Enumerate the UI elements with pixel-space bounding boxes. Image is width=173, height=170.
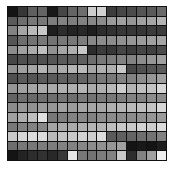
heatmap-grid: [7, 6, 167, 161]
heatmap-cell: [78, 84, 87, 93]
heatmap-cell: [8, 26, 17, 35]
heatmap-cell: [157, 94, 166, 103]
heatmap-cell: [38, 65, 47, 74]
heatmap-cell: [58, 65, 67, 74]
heatmap-cell: [127, 151, 136, 160]
heatmap-cell: [58, 151, 67, 160]
heatmap-cell: [78, 142, 87, 151]
heatmap-cell: [88, 132, 97, 141]
heatmap-cell: [147, 151, 156, 160]
heatmap-cell: [58, 123, 67, 132]
heatmap-cell: [107, 17, 116, 26]
heatmap-cell: [88, 55, 97, 64]
heatmap-cell: [68, 84, 77, 93]
heatmap-cell: [38, 103, 47, 112]
heatmap-cell: [157, 7, 166, 16]
heatmap-cell: [38, 132, 47, 141]
heatmap-cell: [97, 36, 106, 45]
heatmap-cell: [97, 74, 106, 83]
heatmap-cell: [157, 103, 166, 112]
heatmap-cell: [48, 55, 57, 64]
heatmap-cell: [18, 65, 27, 74]
heatmap-cell: [8, 7, 17, 16]
heatmap-cell: [137, 74, 146, 83]
heatmap-cell: [107, 94, 116, 103]
heatmap-cell: [78, 7, 87, 16]
heatmap-cell: [28, 94, 37, 103]
heatmap-cell: [107, 151, 116, 160]
heatmap-cell: [48, 84, 57, 93]
heatmap-cell: [137, 84, 146, 93]
heatmap-cell: [38, 46, 47, 55]
heatmap-cell: [68, 55, 77, 64]
heatmap-cell: [117, 7, 126, 16]
heatmap-cell: [137, 55, 146, 64]
heatmap-cell: [78, 103, 87, 112]
heatmap-cell: [48, 142, 57, 151]
heatmap-cell: [18, 36, 27, 45]
heatmap-cell: [137, 46, 146, 55]
heatmap-cell: [147, 17, 156, 26]
heatmap-cell: [88, 142, 97, 151]
heatmap-cell: [78, 94, 87, 103]
heatmap-cell: [137, 123, 146, 132]
heatmap-cell: [107, 132, 116, 141]
heatmap-cell: [147, 7, 156, 16]
heatmap-cell: [8, 132, 17, 141]
heatmap-cell: [157, 123, 166, 132]
heatmap-cell: [28, 103, 37, 112]
heatmap-cell: [157, 46, 166, 55]
heatmap-cell: [137, 132, 146, 141]
heatmap-cell: [137, 36, 146, 45]
heatmap-cell: [127, 17, 136, 26]
heatmap-cell: [28, 142, 37, 151]
heatmap-cell: [8, 113, 17, 122]
heatmap-cell: [8, 74, 17, 83]
heatmap-cell: [127, 142, 136, 151]
heatmap-cell: [18, 55, 27, 64]
heatmap-cell: [78, 26, 87, 35]
heatmap-cell: [38, 17, 47, 26]
heatmap-cell: [88, 103, 97, 112]
heatmap-cell: [117, 65, 126, 74]
heatmap-cell: [18, 132, 27, 141]
heatmap-cell: [38, 113, 47, 122]
heatmap-cell: [78, 55, 87, 64]
heatmap-cell: [88, 26, 97, 35]
heatmap-cell: [18, 46, 27, 55]
heatmap-cell: [78, 17, 87, 26]
heatmap-cell: [28, 151, 37, 160]
heatmap-cell: [58, 94, 67, 103]
heatmap-cell: [137, 7, 146, 16]
heatmap-cell: [117, 113, 126, 122]
heatmap-cell: [88, 7, 97, 16]
heatmap-cell: [88, 123, 97, 132]
heatmap-cell: [88, 17, 97, 26]
heatmap-cell: [8, 123, 17, 132]
heatmap-cell: [68, 46, 77, 55]
heatmap-cell: [147, 55, 156, 64]
heatmap-cell: [68, 36, 77, 45]
heatmap-cell: [48, 132, 57, 141]
heatmap-cell: [107, 142, 116, 151]
heatmap-cell: [38, 74, 47, 83]
heatmap-cell: [48, 65, 57, 74]
heatmap-cell: [97, 84, 106, 93]
heatmap-cell: [28, 36, 37, 45]
heatmap-cell: [147, 103, 156, 112]
heatmap-cell: [48, 7, 57, 16]
heatmap-cell: [58, 84, 67, 93]
heatmap-cell: [117, 36, 126, 45]
heatmap-cell: [107, 84, 116, 93]
heatmap-cell: [18, 113, 27, 122]
heatmap-cell: [157, 65, 166, 74]
heatmap-cell: [8, 103, 17, 112]
heatmap-cell: [78, 132, 87, 141]
heatmap-cell: [107, 123, 116, 132]
heatmap-cell: [48, 26, 57, 35]
heatmap-cell: [38, 94, 47, 103]
heatmap-cell: [28, 74, 37, 83]
heatmap-cell: [97, 17, 106, 26]
heatmap-cell: [8, 55, 17, 64]
heatmap-cell: [107, 55, 116, 64]
